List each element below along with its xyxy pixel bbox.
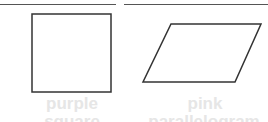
square-shape: [32, 14, 111, 92]
square-label: purple: [22, 94, 122, 114]
parallelogram-label: pink: [150, 94, 260, 114]
parallelogram-sublabel: parallelogram: [134, 112, 268, 122]
parallelogram-shape: [143, 24, 261, 82]
square-sublabel: square: [22, 112, 122, 122]
